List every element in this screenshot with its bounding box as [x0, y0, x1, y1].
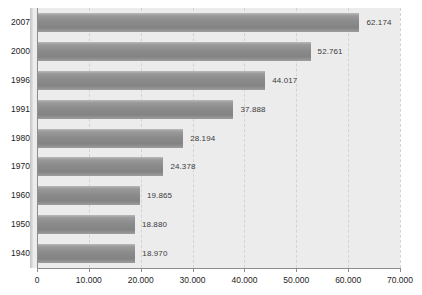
- bar-value-label: 62.174: [366, 18, 391, 27]
- y-axis-category-label: 1980: [2, 133, 30, 143]
- bar-row: 62.174: [37, 13, 391, 32]
- bar: [37, 129, 183, 148]
- bar-chart: 200720001996199119801970196019501940 62.…: [0, 0, 422, 295]
- y-axis-line: [37, 8, 38, 268]
- y-axis-category-label: 2007: [2, 17, 30, 27]
- x-axis-tick: [296, 268, 297, 272]
- gridline: [400, 8, 401, 268]
- bar-value-label: 19.865: [147, 191, 172, 200]
- bar: [37, 13, 359, 32]
- bar: [37, 42, 311, 61]
- x-axis-tick: [400, 268, 401, 272]
- bar: [37, 157, 163, 176]
- x-axis-tick-label: 40.000: [231, 275, 257, 285]
- bar: [37, 71, 265, 90]
- bar-value-label: 37.888: [240, 105, 265, 114]
- x-axis-tick: [193, 268, 194, 272]
- bar: [37, 244, 135, 263]
- bar-value-label: 28.194: [190, 134, 215, 143]
- y-axis-category-label: 1996: [2, 75, 30, 85]
- x-axis-tick: [244, 268, 245, 272]
- y-axis-category-label: 2000: [2, 46, 30, 56]
- bar-value-label: 18.880: [142, 220, 167, 229]
- x-axis-tick-label: 50.000: [283, 275, 309, 285]
- y-axis-category-label: 1991: [2, 104, 30, 114]
- x-axis-tick: [348, 268, 349, 272]
- plot-area: 62.17452.76144.01737.88828.19424.37819.8…: [30, 8, 400, 268]
- bar-row: 44.017: [37, 71, 297, 90]
- bar-value-label: 44.017: [272, 76, 297, 85]
- x-axis-tick-label: 20.000: [128, 275, 154, 285]
- x-axis-tick-label: 30.000: [180, 275, 206, 285]
- y-axis-category-label: 1950: [2, 219, 30, 229]
- x-axis-line: [37, 268, 400, 269]
- x-axis-tick: [89, 268, 90, 272]
- bar: [37, 100, 233, 119]
- y-axis-category-label: 1970: [2, 161, 30, 171]
- bar-series: 62.17452.76144.01737.88828.19424.37819.8…: [37, 8, 400, 268]
- bar-value-label: 18.970: [142, 249, 167, 258]
- bar-row: 19.865: [37, 186, 172, 205]
- y-axis-category-label: 1960: [2, 190, 30, 200]
- x-axis-tick-label: 60.000: [335, 275, 361, 285]
- y-axis-category-label: 1940: [2, 248, 30, 258]
- y-axis-category-labels: 200720001996199119801970196019501940: [0, 8, 30, 268]
- bar-value-label: 52.761: [318, 47, 343, 56]
- bar-value-label: 24.378: [170, 162, 195, 171]
- x-axis-tick-label: 10.000: [76, 275, 102, 285]
- bar-row: 18.880: [37, 215, 167, 234]
- bar: [37, 186, 140, 205]
- bar-row: 52.761: [37, 42, 343, 61]
- bar-row: 18.970: [37, 244, 167, 263]
- bar-row: 28.194: [37, 129, 215, 148]
- bar-row: 24.378: [37, 157, 195, 176]
- x-axis-tick-label: 70.000: [387, 275, 413, 285]
- bar-row: 37.888: [37, 100, 266, 119]
- x-axis-tick: [37, 268, 38, 272]
- x-axis-tick-label: 0: [35, 275, 40, 285]
- bar: [37, 215, 135, 234]
- x-axis-tick: [141, 268, 142, 272]
